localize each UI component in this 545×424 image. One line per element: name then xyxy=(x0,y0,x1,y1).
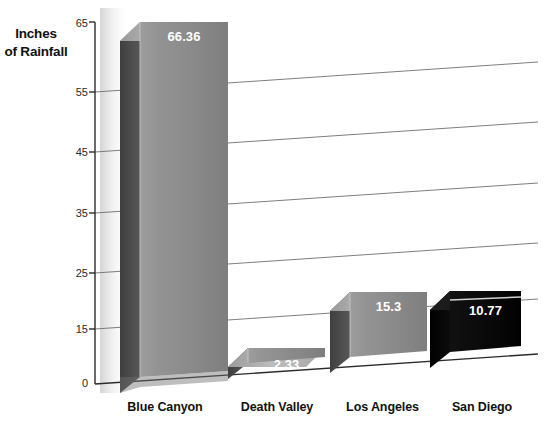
y-axis xyxy=(89,22,95,384)
category-label-san-diego: San Diego xyxy=(432,400,532,414)
bar-blue-canyon-side xyxy=(120,22,140,393)
category-label-los-angeles: Los Angeles xyxy=(330,400,435,414)
bar-blue-canyon xyxy=(120,22,228,393)
bar-value-death-valley: 2.33 xyxy=(248,357,325,372)
bar-value-los-angeles: 15.3 xyxy=(350,299,427,314)
category-label-death-valley: Death Valley xyxy=(222,400,332,414)
bar-value-san-diego: 10.77 xyxy=(450,303,521,318)
rainfall-bar-chart: Inches of Rainfall 65 55 45 35 25 15 0 xyxy=(0,0,545,424)
bar-value-blue-canyon: 66.36 xyxy=(140,29,228,44)
bar-blue-canyon-front xyxy=(140,22,228,377)
category-label-blue-canyon: Blue Canyon xyxy=(110,400,220,414)
